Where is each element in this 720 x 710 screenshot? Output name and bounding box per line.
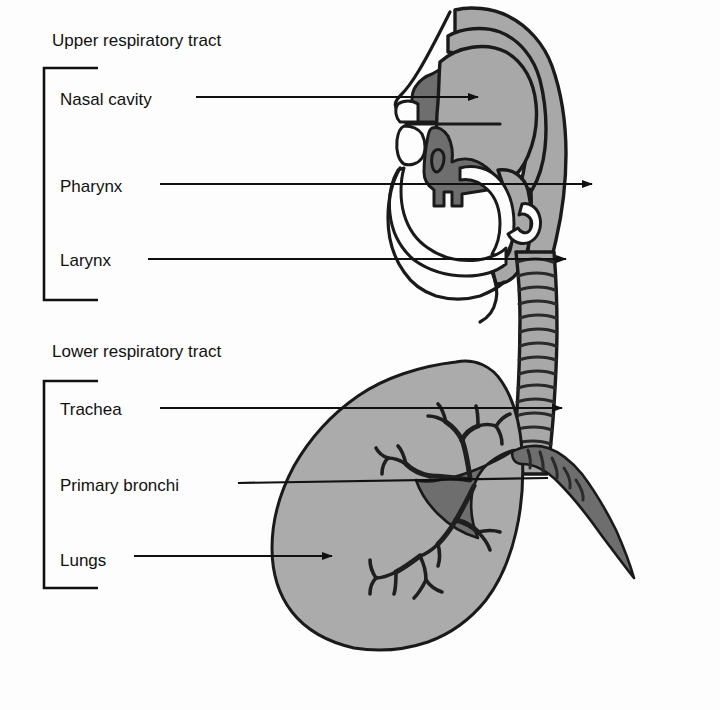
upper-tract-title: Upper respiratory tract — [52, 31, 221, 50]
label-trachea: Trachea — [60, 400, 122, 419]
uvula — [432, 149, 444, 172]
lung — [272, 361, 523, 650]
nostril-space — [396, 101, 418, 122]
maxilla — [397, 126, 425, 165]
respiratory-diagram-page: Upper respiratory tract Nasal cavity Pha… — [0, 0, 720, 710]
label-larynx: Larynx — [60, 251, 112, 270]
label-lungs: Lungs — [60, 551, 106, 570]
label-nasal-cavity: Nasal cavity — [60, 90, 152, 109]
label-primary-bronchi: Primary bronchi — [60, 476, 179, 495]
label-pharynx: Pharynx — [60, 177, 123, 196]
neck-front-line — [480, 272, 497, 322]
respiratory-tract-diagram: Upper respiratory tract Nasal cavity Pha… — [0, 0, 720, 710]
lower-tract-title: Lower respiratory tract — [52, 342, 221, 361]
